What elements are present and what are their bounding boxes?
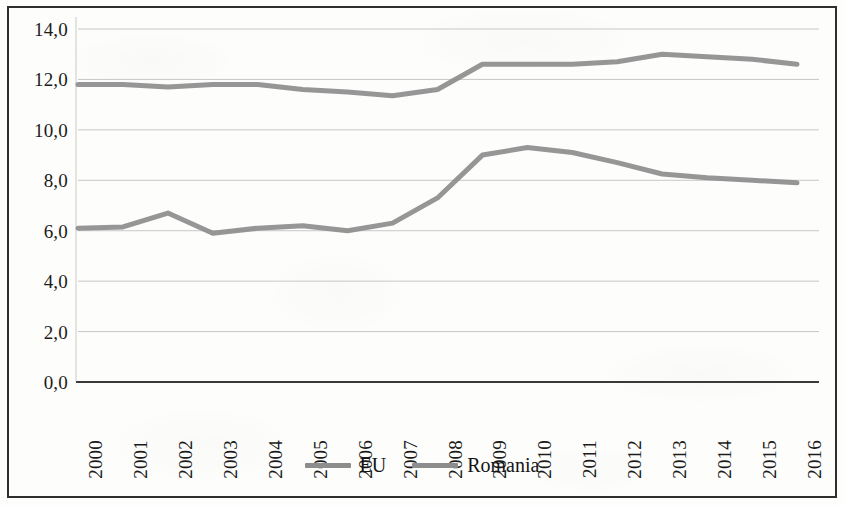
- chart-legend: EURomania: [0, 455, 844, 475]
- chart-figure: 0,02,04,06,08,010,012,014,0 200020012002…: [0, 0, 844, 505]
- legend-entry-romania[interactable]: Romania: [412, 455, 539, 475]
- legend-entry-eu[interactable]: EU: [305, 455, 387, 475]
- legend-line-swatch: [412, 463, 458, 468]
- x-axis-tick-labels: 2000200120022003200420052006200720082009…: [0, 0, 844, 505]
- legend-line-swatch: [305, 463, 351, 468]
- legend-label: Romania: [467, 455, 539, 475]
- legend-label: EU: [360, 455, 387, 475]
